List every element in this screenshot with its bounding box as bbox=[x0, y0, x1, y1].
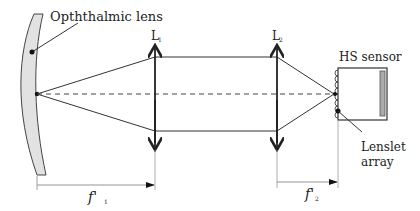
ray-lower-diverging bbox=[37, 94, 155, 131]
lens-l2-subscript: 2 bbox=[279, 36, 283, 43]
hs-sensor-detector bbox=[380, 71, 385, 116]
hs-sensor-label: HS sensor bbox=[339, 50, 402, 64]
f1-subscript: 1 bbox=[104, 198, 108, 205]
f2-subscript: 2 bbox=[315, 195, 319, 202]
ray-lower-converging bbox=[277, 94, 334, 131]
lenslet-array-label-line2: array bbox=[361, 155, 394, 169]
lens-l1-subscript: 1 bbox=[158, 36, 162, 43]
ray-upper-converging bbox=[277, 57, 334, 94]
ray-upper-diverging bbox=[37, 57, 155, 94]
ophthalmic-lens-label: Opththalmic lens bbox=[50, 9, 163, 24]
ophthalmic-lens-leader-dot bbox=[30, 50, 35, 55]
optical-setup-diagram: Opththalmic lens L 1 L 2 HS sensor Lensl… bbox=[0, 0, 420, 211]
lenslet-array-label-line1: Lenslet bbox=[361, 140, 406, 154]
lenslet-focus-dot bbox=[333, 92, 337, 96]
ophthalmic-lens bbox=[21, 14, 46, 175]
f1-label: f' bbox=[87, 189, 97, 205]
f2-label: f' bbox=[304, 186, 314, 202]
